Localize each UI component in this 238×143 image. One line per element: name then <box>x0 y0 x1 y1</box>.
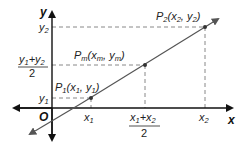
point-pm <box>143 63 147 67</box>
svg-text:2: 2 <box>29 67 35 79</box>
x2-tick-label: x2 <box>198 111 210 125</box>
midpoint-diagram: y x O y2 y1+y2 2 y1 x1 x1+x2 2 x2 P2(x2,… <box>0 0 238 143</box>
y2-tick-label: y2 <box>38 21 50 35</box>
svg-text:2: 2 <box>141 127 147 139</box>
pm-label: Pm(xm, ym) <box>74 49 125 63</box>
ym-tick-label: y1+y2 2 <box>18 53 48 79</box>
y-axis-label: y <box>39 5 48 19</box>
x1-tick-label: x1 <box>83 111 94 125</box>
svg-text:x1+x2: x1+x2 <box>129 111 157 125</box>
p2-label: P2(x2, y2) <box>156 10 201 24</box>
x-axis-label: x <box>227 113 236 127</box>
point-p1 <box>89 96 93 100</box>
svg-text:y1+y2: y1+y2 <box>18 53 46 67</box>
y1-tick-label: y1 <box>38 92 49 106</box>
guide-lines <box>52 27 205 108</box>
xm-tick-label: x1+x2 2 <box>129 111 160 139</box>
origin-label: O <box>39 110 49 124</box>
point-p2 <box>203 25 207 29</box>
p1-label: P1(x1, y1) <box>55 81 100 95</box>
